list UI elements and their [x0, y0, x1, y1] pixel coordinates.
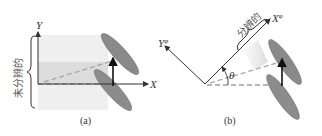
caption-b: (b)	[224, 115, 236, 127]
theta-label: θ	[229, 69, 235, 81]
theta-arc	[222, 67, 228, 85]
x-phi-label: Xφ	[271, 12, 283, 24]
resolved-label: 分辨的	[234, 10, 264, 40]
resolved-beam	[243, 40, 268, 70]
diagram-canvas: Y X 未分辨的 (a) Yφ Xφ θ 分辨的 (b)	[0, 0, 322, 136]
unresolved-label: 未分辨的	[12, 58, 24, 98]
panel-b: Yφ Xφ θ 分辨的 (b)	[158, 10, 306, 127]
panel-a: Y X 未分辨的 (a)	[12, 19, 158, 127]
x-axis-label: X	[149, 78, 158, 90]
y-phi-axis	[165, 46, 205, 84]
y-axis-label: Y	[36, 19, 44, 31]
curly-brace-unresolved	[27, 36, 35, 108]
caption-a: (a)	[80, 115, 91, 127]
